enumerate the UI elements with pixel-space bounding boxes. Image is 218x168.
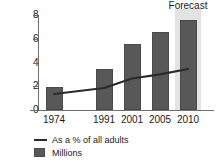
line-series-path [54,69,188,94]
chart-container: Forecast 02468 19741991200120052010 As a… [0,0,218,168]
y-axis-tick [33,15,38,16]
x-axis-label-2010: 2010 [170,114,206,125]
box-swatch-icon [34,146,47,159]
line-series-layer [38,15,210,110]
y-axis-tick [33,110,38,111]
x-axis-label-1974: 1974 [36,114,72,125]
legend-item-percent: As a % of all adults [34,133,129,146]
legend-item-millions: Millions [34,146,129,159]
y-axis-tick [33,39,38,40]
y-axis-tick [33,63,38,64]
x-axis-line [30,110,214,111]
chart-legend: As a % of all adults Millions [34,133,129,159]
legend-item-label: As a % of all adults [52,134,129,146]
legend-item-label: Millions [52,147,82,159]
y-axis-tick [33,86,38,87]
forecast-annotation-label: Forecast [161,0,215,11]
line-swatch-icon [34,133,47,146]
